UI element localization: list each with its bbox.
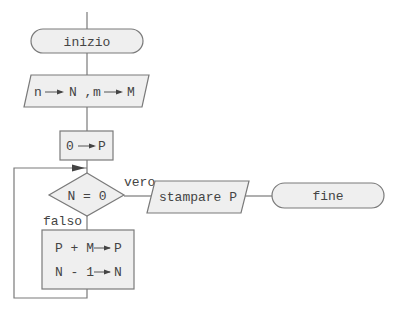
loop-arrow-icon [72,165,85,172]
decision-diamond: N = 0 [49,173,124,216]
input-var-N: N , [69,85,92,100]
input-parallelogram: n N , m M [24,75,149,107]
loop-line2-left: N - 1 [55,265,94,280]
true-branch-label: vero [124,175,155,190]
init-right: P [98,139,106,154]
false-branch-label: falso [43,214,82,229]
output-parallelogram: stampare P [147,181,249,213]
start-terminal: inizio [31,29,143,53]
start-label: inizio [64,35,111,50]
end-label: fine [312,189,343,204]
input-var-n: n [34,85,42,100]
init-process-box: 0 P [60,131,113,160]
end-terminal: fine [272,183,384,208]
loop-line1-left: P + M [55,241,94,256]
init-left: 0 [66,139,74,154]
loop-line2-right: N [114,265,122,280]
input-var-m: m [93,85,101,100]
loop-body-process-box: P + M P N - 1 N [42,230,134,289]
input-var-M: M [127,85,135,100]
loop-line1-right: P [114,241,122,256]
decision-label: N = 0 [67,189,106,204]
flowchart: inizio n N , m M 0 P N = 0 vero falso st… [0,0,396,314]
output-label: stampare P [159,190,237,205]
